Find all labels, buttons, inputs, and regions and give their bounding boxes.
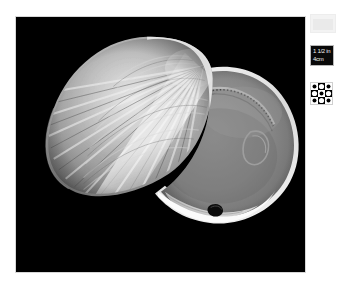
image-plate: 1 1/2 in 4cm bbox=[0, 0, 342, 286]
checkerboard-target-marker bbox=[310, 82, 333, 105]
shell-photo-canvas bbox=[16, 17, 305, 272]
scale-bar-imperial: 1 1/2 in bbox=[313, 47, 332, 55]
scale-bar-metric: 4cm bbox=[313, 55, 332, 63]
scale-bar-marker: 1 1/2 in 4cm bbox=[310, 45, 334, 66]
specimen-photograph bbox=[15, 16, 306, 273]
checkerboard-icon bbox=[311, 83, 332, 104]
gray-card-marker bbox=[310, 14, 336, 33]
reference-markers: 1 1/2 in 4cm bbox=[310, 14, 340, 114]
gray-card-swatch bbox=[313, 19, 333, 30]
